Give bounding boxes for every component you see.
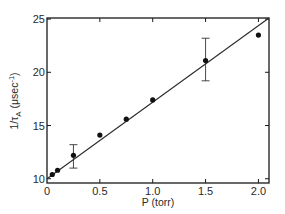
fit-line: [47, 18, 269, 179]
y-tick-label: 25: [33, 13, 45, 25]
error-bars: [69, 38, 209, 168]
x-tick-label: 1.5: [198, 185, 213, 197]
y-axis-label-unit: (μsec: [8, 83, 20, 112]
y-tick-label: 15: [33, 120, 45, 132]
y-axis-label-main: 1/τ: [8, 116, 20, 130]
x-tick-label: 0.5: [92, 185, 107, 197]
data-points: [50, 32, 261, 177]
fit-line-path: [47, 18, 269, 179]
chart: 00.51.01.52.0 10152025 P (torr) 1/τA (μs…: [0, 0, 285, 214]
x-tick-label: 2.0: [251, 185, 266, 197]
y-axis-label-close: ): [8, 72, 20, 76]
y-tick-label: 10: [33, 173, 45, 185]
data-point: [150, 97, 155, 102]
data-point: [97, 132, 102, 137]
y-tick-label: 20: [33, 66, 45, 78]
x-tick-label: 0: [44, 185, 50, 197]
data-point: [55, 168, 60, 173]
y-tick-labels: 10152025: [33, 13, 45, 185]
data-point: [256, 32, 261, 37]
y-axis-label-sup: -1: [7, 76, 16, 83]
data-point: [203, 58, 208, 63]
data-point: [124, 117, 129, 122]
x-axis-label: P (torr): [142, 196, 174, 208]
data-point: [50, 172, 55, 177]
y-axis-label: 1/τA (μsec-1): [7, 72, 23, 129]
data-point: [71, 153, 76, 158]
